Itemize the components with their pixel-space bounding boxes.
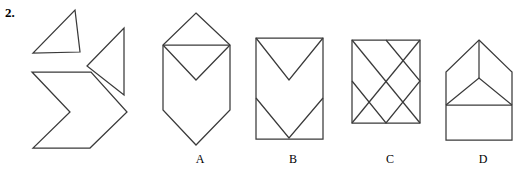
option-b-shape-lower-v [256, 98, 323, 138]
left-pointing-triangle-piece [87, 28, 124, 95]
right-triangle-piece [33, 10, 80, 53]
puzzle-figure: 2. ABCD [0, 0, 516, 172]
option-d-shape[interactable] [446, 40, 512, 140]
option-a-shape-inner-v [163, 45, 230, 80]
option-a-shape[interactable] [163, 13, 230, 145]
option-c-shape[interactable] [352, 40, 420, 123]
option-label-b[interactable]: B [283, 152, 303, 167]
option-b-shape-upper-v [256, 38, 323, 80]
figure-canvas [0, 0, 516, 172]
option-label-c[interactable]: C [380, 152, 400, 167]
option-d-shape-inner-roof-triangle [446, 78, 512, 105]
chevron-arrow-piece [32, 72, 127, 148]
option-b-shape[interactable] [256, 38, 323, 139]
prompt-pieces-group [32, 10, 127, 148]
option-b-shape-outline [256, 38, 323, 139]
options-group [163, 13, 512, 145]
option-label-a[interactable]: A [190, 152, 210, 167]
option-label-d[interactable]: D [473, 152, 493, 167]
